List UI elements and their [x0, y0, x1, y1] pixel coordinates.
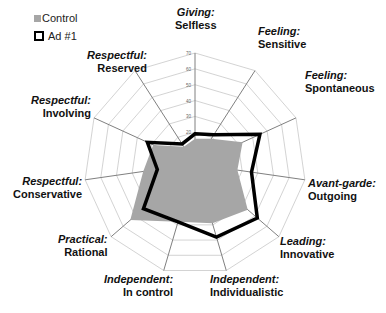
- axis-category: Leading:: [280, 235, 334, 248]
- axis-category: Respectful:: [31, 94, 91, 107]
- legend-item-control: Control: [34, 9, 77, 27]
- axis-label: Independent:Individualistic: [210, 273, 283, 299]
- axis-category: Respectful:: [13, 175, 82, 188]
- axis-sublabel: Sensitive: [258, 38, 306, 51]
- axis-category: Avant-garde:: [308, 177, 376, 190]
- axis-category: Independent:: [104, 273, 173, 286]
- axis-category: Practical:: [58, 233, 108, 246]
- tick-label: 50: [186, 83, 192, 88]
- axis-category: Giving:: [175, 6, 217, 19]
- legend: Control Ad #1: [34, 9, 77, 45]
- tick-label: 40: [186, 99, 192, 104]
- axis-label: Practical:Rational: [58, 233, 108, 259]
- axis-category: Respectful:: [87, 49, 147, 62]
- axis-sublabel: Involving: [31, 107, 91, 120]
- tick-label: 70: [186, 51, 192, 56]
- radar-chart: 010203040506070: [0, 0, 386, 313]
- legend-item-ad1: Ad #1: [34, 27, 77, 45]
- axis-sublabel: Individualistic: [210, 286, 283, 299]
- axis-sublabel: Reserved: [87, 62, 147, 75]
- axis-sublabel: In control: [104, 286, 173, 299]
- axis-label: Respectful:Reserved: [87, 49, 147, 75]
- legend-label-control: Control: [42, 12, 77, 24]
- legend-label-ad1: Ad #1: [48, 30, 77, 42]
- legend-swatch-ad1: [34, 31, 44, 41]
- axis-label: Giving:Selfless: [175, 6, 217, 32]
- tick-label: 20: [186, 130, 192, 135]
- axis-label: Feeling:Sensitive: [258, 25, 306, 51]
- axis-category: Independent:: [210, 273, 283, 286]
- axis-sublabel: Conservative: [13, 188, 82, 201]
- axis-sublabel: Outgoing: [308, 190, 376, 203]
- axis-label: Respectful:Involving: [31, 94, 91, 120]
- tick-label: 30: [186, 114, 192, 119]
- series-layer: [130, 134, 260, 237]
- tick-label: 60: [186, 67, 192, 72]
- axis-label: Respectful:Conservative: [13, 175, 82, 201]
- axis-sublabel: Spontaneous: [305, 82, 375, 95]
- axis-sublabel: Selfless: [175, 19, 217, 32]
- axis-category: Feeling:: [258, 25, 306, 38]
- axis-category: Feeling:: [305, 69, 375, 82]
- legend-swatch-control: [34, 15, 41, 22]
- axis-label: Leading:Innovative: [280, 235, 334, 261]
- axis-label: Independent:In control: [104, 273, 173, 299]
- axis-label: Feeling:Spontaneous: [305, 69, 375, 95]
- axis-label: Avant-garde:Outgoing: [308, 177, 376, 203]
- axis-sublabel: Innovative: [280, 248, 334, 261]
- axis-sublabel: Rational: [58, 246, 108, 259]
